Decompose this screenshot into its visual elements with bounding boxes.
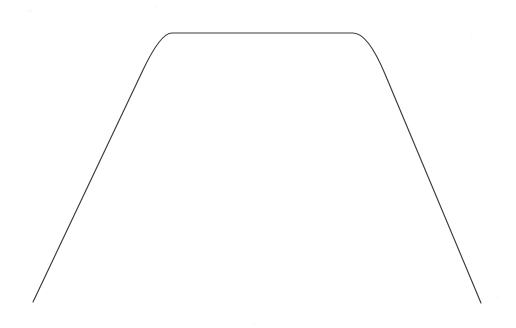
figure-container: [0, 0, 516, 328]
chart-background: [0, 0, 516, 328]
plateau-curve-chart: [0, 0, 516, 328]
